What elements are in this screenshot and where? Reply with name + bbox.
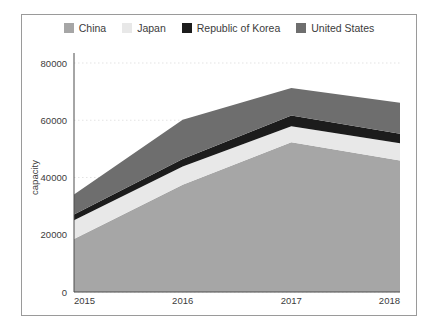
y-tick-label: 40000	[41, 172, 67, 183]
y-axis-title: capacity	[29, 160, 40, 195]
x-tick-label: 2015	[74, 295, 95, 306]
y-tick-label: 60000	[41, 115, 67, 126]
x-tick-label: 2018	[379, 295, 400, 306]
x-tick-label: 2017	[281, 295, 302, 306]
y-tick-label: 0	[62, 287, 67, 298]
area-series-group	[74, 88, 400, 292]
y-tick-label: 80000	[41, 58, 67, 69]
chart-card: China Japan Republic of Korea United Sta…	[21, 14, 417, 316]
y-axis-title-text: capacity	[29, 160, 40, 195]
x-tick-labels: 2015201620172018	[74, 295, 400, 306]
plot-area: 020000400006000080000 2015201620172018 c…	[22, 15, 418, 317]
stacked-area-chart: 020000400006000080000 2015201620172018 c…	[22, 15, 418, 317]
x-tick-label: 2016	[172, 295, 193, 306]
y-tick-labels: 020000400006000080000	[41, 58, 67, 298]
y-tick-label: 20000	[41, 229, 67, 240]
